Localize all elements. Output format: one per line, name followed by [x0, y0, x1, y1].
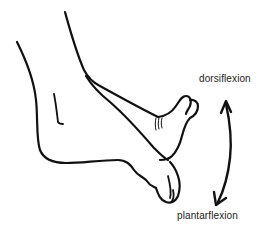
ankle-mark — [54, 94, 63, 124]
plantarflexion-label: plantarflexion — [177, 210, 238, 221]
dorsiflexion-label: dorsiflexion — [199, 73, 251, 84]
foot-diagram — [0, 0, 266, 236]
shin-front-outline — [65, 12, 158, 117]
motion-arrow — [214, 101, 231, 205]
lower-leg-outline — [17, 42, 156, 188]
plantarflexed-foot — [156, 162, 180, 203]
dorsiflexed-foot — [155, 96, 198, 160]
